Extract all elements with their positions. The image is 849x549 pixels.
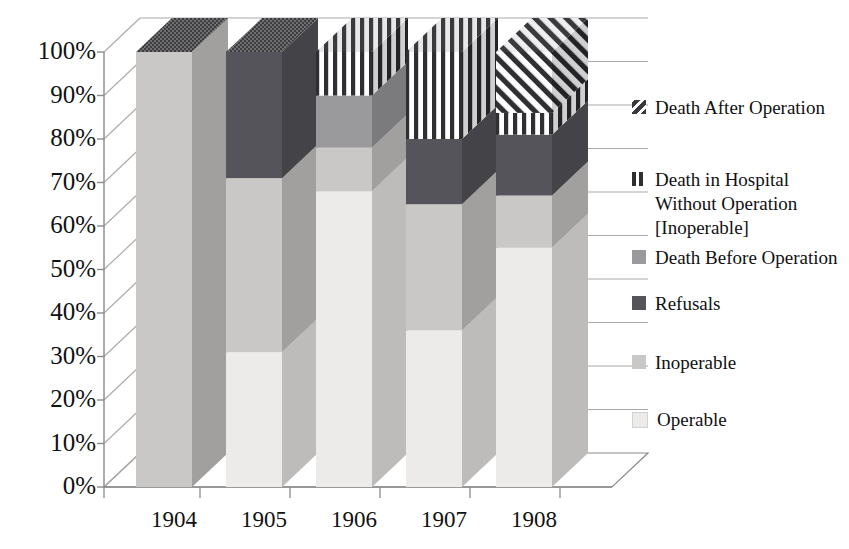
legend-label: Death After Operation [655,96,825,120]
legend-label: Inoperable [655,351,736,375]
bar-segment-side [192,18,228,487]
legend-item-death-before-operation[interactable]: Death Before Operation [632,246,849,270]
gridline-depth [104,236,140,270]
bar-segment-inoperable[interactable] [316,148,372,192]
x-tick-label-1905: 1905 [219,508,309,531]
x-tick-label-1907: 1907 [399,508,489,531]
bar-segment-death-in-hospital-without-operation-inoperable[interactable] [406,52,462,139]
bar-segment-operable[interactable] [316,191,372,487]
bar-segment-death-in-hospital-without-operation-inoperable[interactable] [496,113,552,135]
bar-column-1907[interactable] [406,18,498,487]
legend-item-death-in-hospital-without-operation-inoperable[interactable]: Death in Hospital Without Operation [Ino… [632,168,849,240]
gridline-depth [104,323,140,357]
bar-segment-death-after-operation[interactable] [496,52,552,113]
x-tick-label-1906: 1906 [309,508,399,531]
solid-swatch [632,250,646,264]
legend-label: Death in Hospital Without Operation [Ino… [655,168,849,240]
bar-column-1905[interactable] [226,18,318,487]
chart-container: 100%90%80%70%60%50%40%30%20%10%0% [0,0,849,549]
legend-item-operable[interactable]: Operable [632,408,849,432]
bar-segment-refusals[interactable] [226,52,282,178]
gridline-depth [104,62,140,96]
solid-swatch [632,412,648,428]
bar-segment-refusals[interactable] [406,139,462,204]
vertical-stripes-swatch [632,172,646,186]
bar-segment-refusals[interactable] [496,135,552,196]
plot-area [0,0,849,549]
gridline-depth [104,366,140,400]
legend-item-refusals[interactable]: Refusals [632,292,849,316]
legend-item-death-after-operation[interactable]: Death After Operation [632,96,849,120]
bar-segment-inoperable[interactable] [136,52,192,487]
bar-column-1908[interactable] [496,18,588,487]
gridline-depth [104,105,140,139]
bar-segment-side [552,214,588,487]
gridline-depth [104,192,140,226]
bar-column-1906[interactable] [316,18,408,487]
solid-swatch [632,355,646,369]
gridline-depth [104,279,140,313]
x-tick-label-1904: 1904 [129,508,219,531]
bar-segment-operable[interactable] [496,248,552,487]
bar-segment-side [372,157,408,487]
bar-segment-operable[interactable] [226,352,282,487]
bar-segment-death-before-operation[interactable] [316,96,372,148]
gridline-depth [104,149,140,183]
bar-column-1904[interactable] [136,18,228,487]
legend-label: Refusals [655,292,720,316]
bar-segment-inoperable[interactable] [226,178,282,352]
legend-label: Death Before Operation [655,246,838,270]
bar-segment-operable[interactable] [406,330,462,487]
x-tick-label-1908: 1908 [489,508,579,531]
diagonal-stripes-swatch [632,100,646,114]
legend-label: Operable [657,408,727,432]
bar-segment-death-in-hospital-without-operation-inoperable[interactable] [316,52,372,96]
legend-item-inoperable[interactable]: Inoperable [632,351,849,375]
solid-swatch [632,296,646,310]
gridline-depth [104,18,140,52]
bar-segment-inoperable[interactable] [406,204,462,330]
bar-segment-side [282,144,318,352]
gridline-depth [104,410,140,444]
bar-segment-inoperable[interactable] [496,196,552,248]
